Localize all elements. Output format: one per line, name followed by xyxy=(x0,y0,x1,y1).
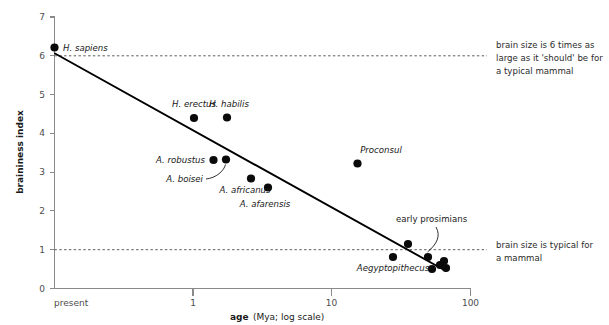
y-axis-title: braininess index xyxy=(15,110,25,194)
point-labels-group: H. sapiens H. erectus H. habilis A. robu… xyxy=(63,43,430,273)
label-h-habilis: H. habilis xyxy=(209,99,249,109)
y-ticklabel-7: 7 xyxy=(39,12,45,22)
y-ticklabel-2: 2 xyxy=(39,206,45,216)
label-proconsul: Proconsul xyxy=(360,145,402,155)
label-a-afarensis: A. afarensis xyxy=(239,199,291,209)
annotation-typical-mammal-line-2: a mammal xyxy=(496,253,542,263)
y-ticklabel-4: 4 xyxy=(39,128,45,138)
label-h-sapiens: H. sapiens xyxy=(63,43,108,53)
point-unlabeled-1 xyxy=(404,240,412,248)
x-axis-title: age xyxy=(230,312,249,322)
point-prosimian-5 xyxy=(442,264,450,272)
label-a-boisei: A. boisei xyxy=(165,174,203,184)
y-tick-group: 0 1 2 3 4 5 6 7 xyxy=(39,12,54,294)
x-ticklabel-present: present xyxy=(54,298,89,308)
y-ticklabel-5: 5 xyxy=(39,90,45,100)
trend-line xyxy=(55,54,446,272)
point-a-africanus xyxy=(247,174,255,182)
point-h-habilis xyxy=(223,113,231,121)
label-a-robustus: A. robustus xyxy=(155,155,205,165)
y-ticklabel-1: 1 xyxy=(39,245,45,255)
x-tick-group: present 1 10 100 xyxy=(54,289,479,309)
point-prosimian-1 xyxy=(424,253,432,261)
x-ticklabel-1: 1 xyxy=(190,298,196,308)
label-aegyptopithecus: Aegyptopithecus xyxy=(356,263,430,273)
point-a-robustus xyxy=(209,156,217,164)
point-prosimian-3 xyxy=(440,257,448,265)
x-axis-title-sub: (Mya; log scale) xyxy=(253,312,324,322)
annotation-six-times: brain size is 6 times as large as it 'sh… xyxy=(496,40,603,76)
x-ticklabel-100: 100 xyxy=(462,298,479,308)
callout-early-prosimians-label: early prosimians xyxy=(396,214,468,224)
y-ticklabel-3: 3 xyxy=(39,167,45,177)
x-ticklabel-10: 10 xyxy=(326,298,338,308)
data-points-group xyxy=(50,43,450,273)
label-a-africanus: A. africanus xyxy=(218,185,271,195)
point-h-sapiens xyxy=(50,43,58,51)
chart-svg: 0 1 2 3 4 5 6 7 present 1 10 100 age (My… xyxy=(0,0,609,325)
leader-early-prosimians xyxy=(428,227,439,252)
point-a-boisei xyxy=(222,155,230,163)
annotation-six-times-line-1: brain size is 6 times as xyxy=(496,40,595,50)
leader-a-boisei xyxy=(206,165,226,180)
point-aegyptopithecus xyxy=(389,253,397,261)
annotation-six-times-line-2: large as it 'should' be for xyxy=(496,53,603,63)
point-proconsul xyxy=(353,159,361,167)
point-h-erectus xyxy=(190,114,198,122)
annotation-typical-mammal-line-1: brain size is typical for xyxy=(496,240,594,250)
braininess-vs-age-chart: 0 1 2 3 4 5 6 7 present 1 10 100 age (My… xyxy=(0,0,609,325)
y-ticklabel-6: 6 xyxy=(39,51,45,61)
annotation-six-times-line-3: a typical mammal xyxy=(496,66,573,76)
annotation-typical-mammal: brain size is typical for a mammal xyxy=(496,240,594,263)
y-ticklabel-0: 0 xyxy=(39,284,45,294)
